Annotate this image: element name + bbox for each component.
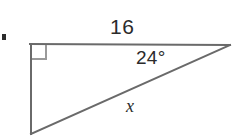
- right-angle-marker-icon: [32, 45, 46, 59]
- hypotenuse-variable-label: x: [126, 97, 134, 115]
- angle-measure-label: 24°: [136, 48, 166, 67]
- triangle-side-top: [30, 44, 230, 45]
- triangle-side-hypotenuse: [31, 45, 230, 134]
- side-length-label-top: 16: [110, 16, 134, 37]
- geometry-figure: 16 24° x: [0, 0, 232, 139]
